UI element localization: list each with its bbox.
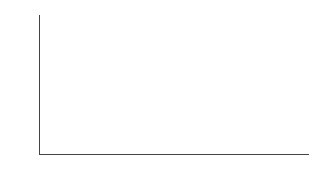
x-axis-line <box>39 154 309 155</box>
y-axis-line <box>39 15 40 155</box>
